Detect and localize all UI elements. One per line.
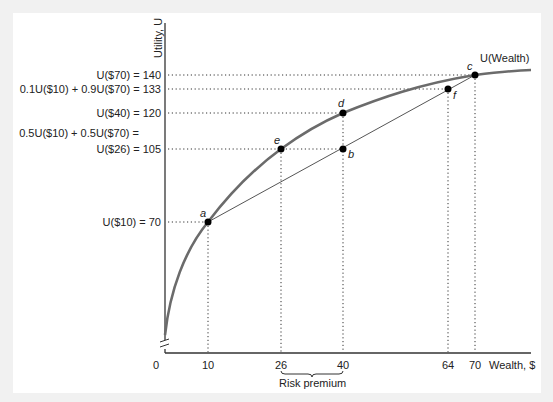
point-label-f: f <box>453 89 456 101</box>
point-label-d: d <box>338 97 344 109</box>
point-label-e: e <box>274 134 280 146</box>
utility-curve <box>165 70 531 335</box>
risk-premium-label: Risk premium <box>279 377 346 389</box>
x-axis-label: Wealth, $ <box>489 359 535 371</box>
point-label-a: a <box>200 207 206 219</box>
point-a <box>205 219 212 226</box>
x-tick-40: 40 <box>337 359 349 371</box>
x-tick-70: 70 <box>469 359 481 371</box>
point-c <box>472 72 479 79</box>
label-u70: U($70) = 140 <box>96 69 161 81</box>
label-u133: 0.1U($10) + 0.9U($70) = 133 <box>20 83 161 95</box>
point-e <box>278 146 285 153</box>
x-tick-0: 0 <box>153 359 159 371</box>
label-u105-line2: U($26) = 105 <box>96 143 161 155</box>
point-label-c: c <box>467 60 473 72</box>
x-tick-10: 10 <box>202 359 214 371</box>
curve-label: U(Wealth) <box>480 52 529 64</box>
point-b <box>340 146 347 153</box>
data-points <box>205 72 479 226</box>
point-label-b: b <box>348 148 354 160</box>
y-axis-label: Utility, U <box>152 18 164 58</box>
x-tick-64: 64 <box>442 359 454 371</box>
label-u10: U($10) = 70 <box>103 216 161 228</box>
axis-break <box>160 339 169 347</box>
x-tick-26: 26 <box>275 359 287 371</box>
label-u105-line1: 0.5U($10) + 0.5U($70) = <box>19 127 139 139</box>
point-d <box>340 110 347 117</box>
label-u40: U($40) = 120 <box>96 107 161 119</box>
point-f <box>445 86 452 93</box>
